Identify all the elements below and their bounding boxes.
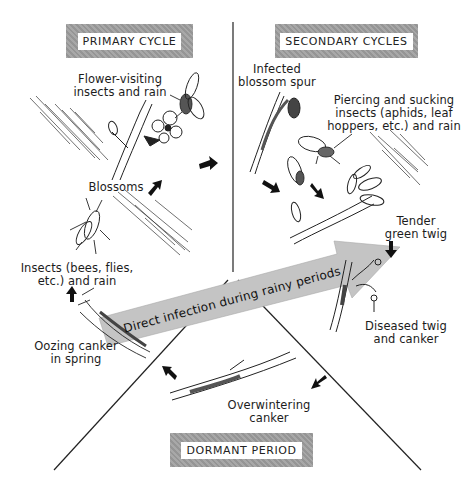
fire-blight-cycle-diagram: PRIMARY CYCLE SECONDARY CYCLES DORMANT P… <box>0 0 467 486</box>
arrow-down-left-icon <box>311 375 327 389</box>
arrow-down-right-icon <box>262 180 280 193</box>
piercing-sucking-insects-label: Piercing and sucking insects (aphids, le… <box>322 94 466 133</box>
primary-cycle-title-box: PRIMARY CYCLE <box>66 24 193 58</box>
tender-green-twig-label: Tender green twig <box>376 215 456 241</box>
label-line: insects and rain <box>64 86 176 99</box>
label-line: hoppers, etc.) and rain <box>322 120 466 133</box>
arrow-up-icon <box>66 286 77 302</box>
secondary-cycles-title: SECONDARY CYCLES <box>280 33 412 50</box>
label-line: green twig <box>376 228 456 241</box>
overwintering-canker-illustration <box>170 352 296 400</box>
primary-cycle-title: PRIMARY CYCLE <box>78 33 182 50</box>
oozing-canker-label: Oozing canker in spring <box>28 340 124 366</box>
blossom-branch-illustration <box>107 100 182 180</box>
overwintering-canker-label: Overwintering canker <box>220 399 318 425</box>
leafhopper-icon <box>297 134 352 164</box>
label-line: blossom spur <box>234 76 320 89</box>
insects-rain-label: Insects (bees, flies, etc.) and rain <box>14 262 140 288</box>
label-line: canker <box>220 412 318 425</box>
label-line: etc.) and rain <box>14 275 140 288</box>
infected-blossom-spur-label: Infected blossom spur <box>234 63 320 89</box>
label-line: Blossoms <box>86 181 146 194</box>
infected-blossom-spur-illustration <box>250 92 300 174</box>
arrow-down-right-icon <box>310 183 324 199</box>
secondary-cycles-title-box: SECONDARY CYCLES <box>275 24 418 58</box>
rain-icon <box>30 96 108 160</box>
dormant-period-title-box: DORMANT PERIOD <box>170 433 313 467</box>
label-line: in spring <box>28 353 124 366</box>
rain-icon <box>370 130 428 185</box>
insect-icon <box>285 155 306 185</box>
label-line: and canker <box>358 333 454 346</box>
rain-icon <box>113 190 192 255</box>
arrow-up-right-icon <box>148 180 162 196</box>
fly-icon <box>70 198 110 254</box>
diseased-twig-label: Diseased twig and canker <box>358 320 454 346</box>
arrow-right-icon <box>199 156 218 170</box>
arrow-up-left-icon <box>162 366 177 380</box>
dormant-period-title: DORMANT PERIOD <box>181 442 301 459</box>
blossoms-label: Blossoms <box>86 181 146 194</box>
flower-visiting-label: Flower-visiting insects and rain <box>64 73 176 99</box>
